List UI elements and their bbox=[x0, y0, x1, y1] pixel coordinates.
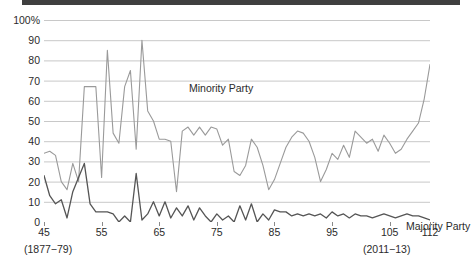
y-tick-label-30: 30 bbox=[0, 156, 40, 166]
x-axis-start-note: (1877−79) bbox=[24, 243, 72, 255]
x-tick-label-85: 85 bbox=[269, 226, 281, 238]
gridlines-group bbox=[44, 21, 430, 223]
x-tick-label-112: 112 bbox=[422, 226, 439, 238]
x-tick-label-105: 105 bbox=[381, 226, 399, 238]
x-tick-label-65: 65 bbox=[153, 226, 165, 238]
x-tick-label-45: 45 bbox=[38, 226, 50, 238]
y-axis-labels: 0102030405060708090100% bbox=[0, 20, 40, 222]
x-axis-labels: 455565758595105112 bbox=[44, 226, 430, 242]
y-tick-label-10: 10 bbox=[0, 197, 40, 207]
x-axis-end-note: (2011−13) bbox=[363, 243, 410, 255]
plot-area: Minority Party Majority Party bbox=[44, 20, 430, 222]
y-tick-label-0: 0 bbox=[0, 217, 40, 227]
y-tick-label-90: 90 bbox=[0, 35, 40, 45]
x-tick-label-95: 95 bbox=[326, 226, 338, 238]
y-tick-label-70: 70 bbox=[0, 76, 40, 86]
y-tick-label-20: 20 bbox=[0, 177, 40, 187]
y-tick-label-100: 100% bbox=[0, 15, 40, 25]
minority-party-line bbox=[44, 40, 430, 192]
chart-lines bbox=[44, 20, 430, 222]
minority-party-label: Minority Party bbox=[189, 82, 253, 94]
chart-figure: 0102030405060708090100% Minority Party M… bbox=[0, 0, 474, 264]
x-tick-label-75: 75 bbox=[211, 226, 223, 238]
x-tick-label-55: 55 bbox=[96, 226, 108, 238]
y-tick-label-80: 80 bbox=[0, 55, 40, 65]
y-tick-label-60: 60 bbox=[0, 96, 40, 106]
top-rule-divider bbox=[22, 0, 460, 5]
y-tick-label-50: 50 bbox=[0, 116, 40, 126]
y-tick-label-40: 40 bbox=[0, 136, 40, 146]
